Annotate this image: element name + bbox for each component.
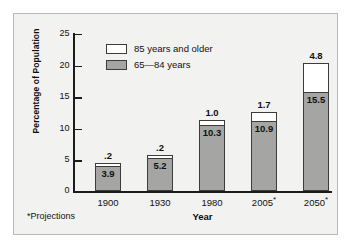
y-axis-tick-label-20: 20 [48, 60, 70, 71]
legend-item-65-84[interactable]: 65—84 years [106, 58, 213, 71]
bar-value-label-2050: 15.5 [304, 95, 328, 105]
chart-figure-panel: Percentage of Population 25 20 15 10 5 0… [13, 13, 338, 235]
bar-value-label-2005: 10.9 [252, 124, 276, 134]
chart-legend: 85 years and older 65—84 years [106, 42, 213, 74]
y-axis-tick-label-10: 10 [48, 123, 70, 134]
x-tick-text-1930: 1930 [149, 197, 170, 208]
y-axis-tick-20: 20 [75, 66, 82, 68]
y-axis-tick-label-0: 0 [48, 185, 70, 196]
x-tick-text-1980: 1980 [201, 197, 222, 208]
y-axis-line [73, 33, 75, 193]
bar-segment-85-and-older-2005[interactable] [251, 112, 277, 123]
bar-segment-65-84-2050[interactable]: 15.5 [303, 93, 329, 191]
y-axis-tick-label-25: 25 [48, 28, 70, 39]
x-tick-asterisk-2005: * [273, 195, 276, 204]
bar-segment-65-84-1930[interactable]: 5.2 [147, 159, 173, 192]
bar-segment-65-84-1980[interactable]: 10.3 [199, 126, 225, 191]
chart-footnote: *Projections [27, 211, 75, 221]
bar-top-label-2005: 1.7 [245, 100, 283, 110]
x-axis-tick-label-2005: 2005* [236, 197, 292, 208]
bar-group-1900[interactable]: .2 3.9 [95, 163, 121, 192]
x-axis-tick-label-1980: 1980 [184, 197, 240, 208]
x-axis-tick-label-1900: 1900 [80, 197, 136, 208]
x-tick-text-2050: 2050 [304, 197, 325, 208]
x-axis-line [73, 191, 332, 193]
y-axis-tick-label-5: 5 [48, 154, 70, 165]
y-axis-tick-5: 5 [75, 160, 82, 162]
legend-swatch-white-icon [106, 44, 127, 54]
legend-item-85-and-older[interactable]: 85 years and older [106, 42, 213, 55]
legend-label-85-and-older: 85 years and older [134, 43, 213, 54]
x-tick-asterisk-2050: * [325, 195, 328, 204]
x-tick-text-2005: 2005 [252, 197, 273, 208]
bar-group-1930[interactable]: .2 5.2 [147, 155, 173, 192]
y-axis-tick-label-15: 15 [48, 91, 70, 102]
bar-segment-65-84-2005[interactable]: 10.9 [251, 122, 277, 191]
x-axis-tick-label-2050: 2050* [288, 197, 344, 208]
y-axis-tick-10: 10 [75, 129, 82, 131]
bar-top-label-2050: 4.8 [297, 51, 335, 61]
bar-group-2005[interactable]: 1.7 10.9 [251, 112, 277, 192]
legend-swatch-gray-icon [106, 60, 127, 70]
y-axis-title: Percentage of Population [31, 11, 41, 151]
legend-label-65-84: 65—84 years [134, 59, 191, 70]
bar-segment-85-and-older-2050[interactable] [303, 63, 329, 93]
bar-segment-65-84-1900[interactable]: 3.9 [95, 167, 121, 192]
bar-top-label-1980: 1.0 [193, 108, 231, 118]
x-tick-text-1900: 1900 [97, 197, 118, 208]
bar-top-label-1930: .2 [141, 143, 179, 153]
y-axis-tick-25: 25 [75, 34, 82, 36]
bar-top-label-1900: .2 [89, 151, 127, 161]
bar-value-label-1980: 10.3 [200, 128, 224, 138]
x-axis-title: Year [73, 211, 332, 222]
x-axis-tick-label-1930: 1930 [132, 197, 188, 208]
bar-value-label-1930: 5.2 [148, 161, 172, 171]
y-axis-tick-15: 15 [75, 97, 82, 99]
bar-group-1980[interactable]: 1.0 10.3 [199, 120, 225, 192]
bar-group-2050[interactable]: 4.8 15.5 [303, 63, 329, 192]
bar-value-label-1900: 3.9 [96, 169, 120, 179]
